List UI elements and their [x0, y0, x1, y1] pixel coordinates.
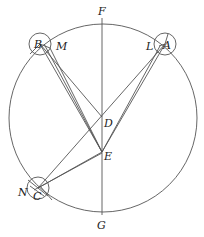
line-n-e — [34, 153, 102, 190]
label-c: C — [33, 190, 42, 203]
label-f: F — [97, 5, 106, 18]
geometric-diagram: F G B M L A D E N C — [0, 0, 204, 237]
line-b-d — [40, 44, 102, 117]
line-m-e-inner — [44, 44, 102, 152]
line-b-e — [40, 44, 102, 152]
label-g: G — [97, 219, 106, 232]
main-circle — [9, 24, 197, 212]
label-l: L — [145, 40, 153, 53]
line-a-e — [102, 44, 165, 152]
line-m-e — [50, 48, 102, 152]
label-d: D — [103, 117, 113, 130]
label-b: B — [33, 38, 42, 51]
label-n: N — [17, 186, 28, 199]
label-e: E — [103, 150, 112, 163]
line-l-e — [102, 46, 160, 152]
label-a: A — [162, 39, 171, 52]
label-m: M — [55, 40, 68, 53]
line-a-c — [38, 44, 165, 188]
